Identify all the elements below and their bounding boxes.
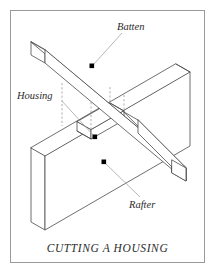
leader-batten: [94, 33, 122, 64]
label-housing: Housing: [17, 91, 53, 102]
dot-rafter: [102, 160, 107, 165]
dot-batten: [90, 64, 95, 69]
isometric-drawing: .solid { fill: none; stroke: #4a4a4a; st…: [0, 0, 217, 275]
dot-housing: [93, 135, 98, 140]
figure-page: .solid { fill: none; stroke: #4a4a4a; st…: [0, 0, 217, 275]
rafter-shape: [31, 64, 190, 230]
figure-caption: CUTTING A HOUSING: [10, 242, 205, 254]
label-batten: Batten: [117, 22, 144, 33]
label-rafter: Rafter: [129, 200, 155, 211]
